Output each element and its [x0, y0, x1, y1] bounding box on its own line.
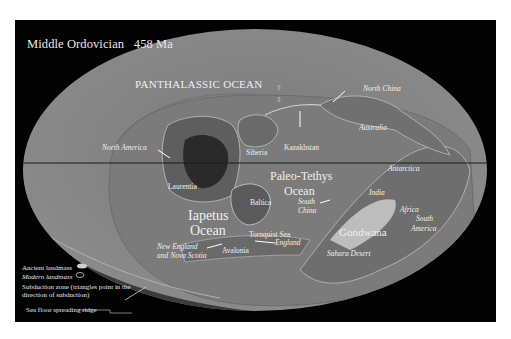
label-south-america-1: South [416, 215, 433, 223]
label-north-america: North America [102, 144, 147, 152]
label-new-england-2: and Nova Scotia [157, 252, 207, 260]
label-antarctica: Antarctica [388, 165, 419, 173]
map-title: Middle Ordovician 458 Ma [27, 37, 173, 52]
legend-modern-landmass: Modern landmass [22, 273, 72, 281]
label-panthalassic-ocean: PANTHALASSIC OCEAN [135, 79, 263, 90]
modern-landmass-swatch [76, 273, 84, 278]
legend-subduction-2: direction of subduction) [22, 291, 89, 299]
legend-spreading-ridge: Sea floor spreading ridge [26, 306, 97, 314]
label-kazakhstan: Kazakhstan [284, 144, 319, 152]
label-north-china: North China [363, 85, 401, 93]
label-iapetus-ocean-2: Ocean [190, 223, 226, 238]
legend-ancient-landmass: Ancient landmass [22, 264, 72, 272]
label-siberia: Siberia [246, 149, 267, 157]
label-england: England [275, 239, 300, 247]
legend-subduction-1: Subduction zone (triangles point in the [22, 283, 131, 291]
label-iapetus-ocean-1: Iapetus [188, 208, 228, 223]
label-paleo-tethys-ocean-2: Ocean [284, 185, 315, 197]
label-avalonia: Avalonia [222, 247, 249, 255]
label-south-america-2: America [411, 225, 436, 233]
ancient-landmass-swatch [77, 264, 87, 269]
label-gondwana: Gondwana [339, 227, 387, 238]
label-south-china-2: China [298, 207, 316, 215]
label-sahara-desert: Sahara Desert [327, 250, 371, 258]
label-india: India [369, 189, 385, 197]
label-paleo-tethys-ocean-1: Paleo-Tethys [270, 170, 332, 182]
label-africa: Africa [400, 206, 419, 214]
label-laurentia: Laurentia [168, 183, 197, 191]
label-new-england-1: New England [157, 243, 198, 251]
ridge-arrow-up-icon: ⇧ [276, 84, 282, 92]
label-australia: Australia [359, 124, 387, 132]
label-south-china-1: South [298, 198, 315, 206]
ridge-arrow-down-icon: ⇩ [276, 96, 282, 104]
label-baltica: Baltica [250, 199, 271, 207]
